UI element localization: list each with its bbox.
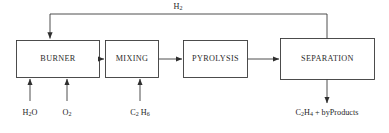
stream-label-oxygen-feed: O2 [50,108,84,117]
product-formula-tail: + byProducts [315,108,359,117]
unit-label-separation: SEPARATION [280,54,375,63]
stream-label-water-feed: H2O [10,108,50,117]
water-formula-tail: O [32,108,38,117]
connector-h2-recycle [50,14,327,39]
stream-label-ethane-feed: C2H6 [118,108,162,117]
ethane-formula-c-sub: 2 [136,111,139,117]
unit-label-mixing: MIXING [105,54,159,63]
unit-label-burner: BURNER [16,54,100,63]
product-formula-h-sub: 4 [310,111,313,117]
stream-label-product-outlet: C2H4 + byProducts [266,108,388,117]
h2-recycle-formula-sub: 2 [179,5,182,11]
unit-label-pyrolysis: PYROLYSIS [183,54,248,63]
stream-label-h2-recycle: H2 [158,2,198,11]
process-flow-diagram: BURNER MIXING PYROLYSIS SEPARATION H2 H2… [0,0,389,133]
ethane-formula-h-sub: 6 [147,111,150,117]
oxygen-formula-sub: 2 [68,111,71,117]
